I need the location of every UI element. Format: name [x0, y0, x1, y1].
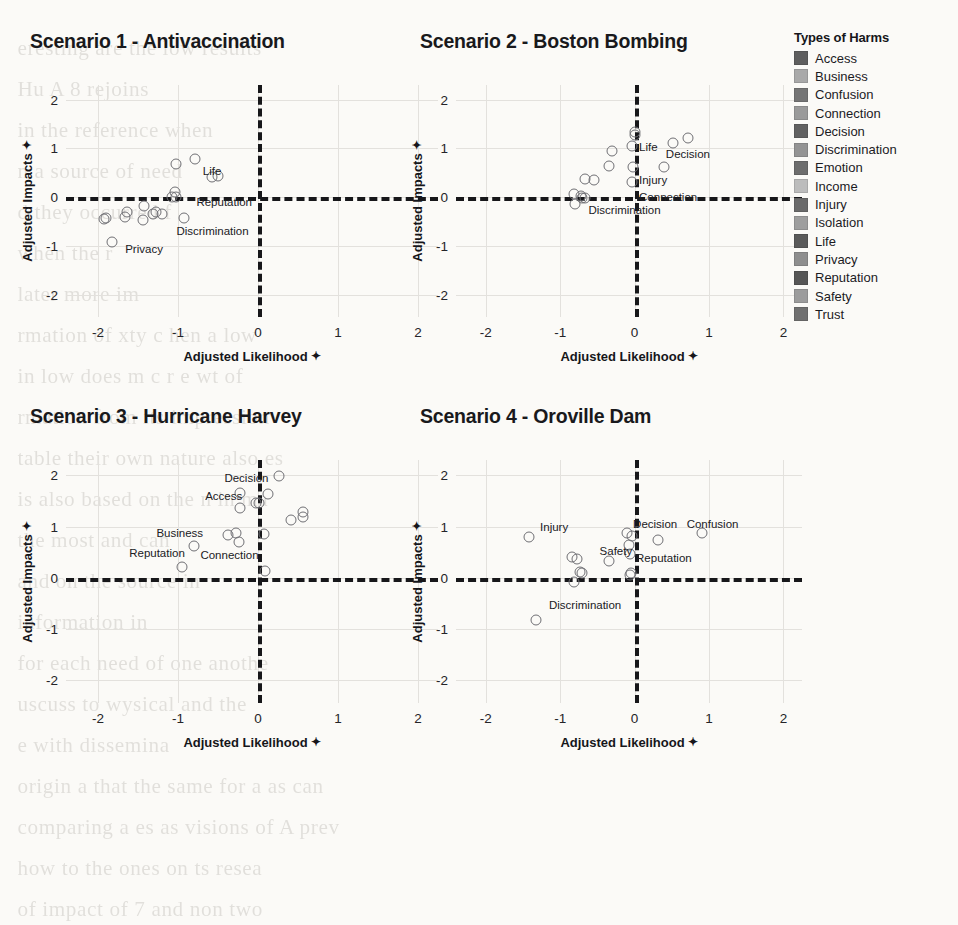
x-axis-label-text: Adjusted Likelihood — [183, 735, 307, 750]
sort-arrow-icon[interactable]: ✦ — [311, 350, 321, 362]
scatter-point[interactable] — [625, 570, 636, 581]
scatter-point[interactable] — [120, 211, 131, 222]
legend-item-business[interactable]: Business — [794, 67, 954, 85]
legend-item-confusion[interactable]: Confusion — [794, 86, 954, 104]
scatter-point[interactable] — [253, 498, 264, 509]
sort-arrow-icon[interactable]: ✦ — [21, 140, 33, 150]
legend-item-discrimination[interactable]: Discrimination — [794, 140, 954, 158]
scatter-point[interactable] — [659, 162, 670, 173]
data-label: Decision — [633, 518, 677, 530]
legend-swatch-icon — [794, 289, 808, 303]
scatter-point[interactable] — [107, 237, 118, 248]
legend-item-label: Access — [815, 52, 857, 65]
zero-axis-vertical — [635, 460, 639, 703]
scatter-point[interactable] — [628, 162, 639, 173]
scatter-point[interactable] — [668, 137, 679, 148]
scatter-point[interactable] — [170, 191, 181, 202]
legend-item-access[interactable]: Access — [794, 49, 954, 67]
scatter-point[interactable] — [157, 208, 168, 219]
legend-item-isolation[interactable]: Isolation — [794, 214, 954, 232]
legend-item-decision[interactable]: Decision — [794, 122, 954, 140]
legend-item-privacy[interactable]: Privacy — [794, 250, 954, 268]
gridline-horizontal — [456, 246, 802, 247]
legend-item-connection[interactable]: Connection — [794, 104, 954, 122]
sort-arrow-icon[interactable]: ✦ — [411, 140, 423, 150]
scatter-point[interactable] — [233, 536, 244, 547]
sort-arrow-icon[interactable]: ✦ — [688, 350, 698, 362]
scatter-point[interactable] — [570, 198, 581, 209]
legend-swatch-icon — [794, 179, 808, 193]
gridline-horizontal — [66, 527, 438, 528]
scatter-point[interactable] — [259, 528, 270, 539]
scatter-point[interactable] — [626, 140, 637, 151]
scatter-point[interactable] — [603, 161, 614, 172]
legend-item-label: Income — [815, 180, 858, 193]
x-axis-tick-label: 1 — [334, 711, 342, 726]
panel-title: Scenario 4 - Oroville Dam — [420, 405, 800, 428]
scatter-point[interactable] — [99, 213, 110, 224]
legend-swatch-icon — [794, 307, 808, 321]
y-axis-tick-label: -1 — [40, 621, 58, 636]
legend-item-injury[interactable]: Injury — [794, 195, 954, 213]
scatter-point[interactable] — [607, 146, 618, 157]
scatter-point[interactable] — [576, 568, 587, 579]
scatter-point[interactable] — [235, 502, 246, 513]
data-label: Decision — [666, 148, 710, 160]
legend-item-trust[interactable]: Trust — [794, 305, 954, 323]
scatter-point[interactable] — [189, 541, 200, 552]
scatter-point[interactable] — [627, 176, 638, 187]
scatter-point[interactable] — [171, 159, 182, 170]
sort-arrow-icon[interactable]: ✦ — [688, 736, 698, 748]
scatter-point[interactable] — [629, 129, 640, 140]
scatter-point[interactable] — [571, 554, 582, 565]
sort-arrow-icon[interactable]: ✦ — [311, 736, 321, 748]
x-axis-tick-label: -1 — [172, 325, 184, 340]
scatter-point[interactable] — [683, 132, 694, 143]
x-axis-tick-label: 0 — [254, 711, 262, 726]
plot-area: DecisionAccessBusinessReputationConnecti… — [66, 460, 438, 703]
scatter-point[interactable] — [260, 566, 271, 577]
legend-item-income[interactable]: Income — [794, 177, 954, 195]
legend-item-reputation[interactable]: Reputation — [794, 269, 954, 287]
scatter-point[interactable] — [177, 561, 188, 572]
data-label: Access — [205, 490, 242, 502]
legend-swatch-icon — [794, 161, 808, 175]
scatter-point[interactable] — [589, 174, 600, 185]
scatter-point[interactable] — [568, 576, 579, 587]
scatter-point[interactable] — [603, 555, 614, 566]
scatter-point[interactable] — [653, 535, 664, 546]
x-axis-label: Adjusted Likelihood✦ — [183, 735, 320, 750]
sort-arrow-icon[interactable]: ✦ — [21, 521, 33, 531]
legend-item-safety[interactable]: Safety — [794, 287, 954, 305]
legend-item-label: Business — [815, 70, 868, 83]
y-axis-tick-label: 0 — [430, 190, 448, 205]
scatter-point[interactable] — [189, 153, 200, 164]
scatter-point[interactable] — [523, 531, 534, 542]
sort-arrow-icon[interactable]: ✦ — [411, 521, 423, 531]
legend-item-emotion[interactable]: Emotion — [794, 159, 954, 177]
data-label: Reputation — [636, 552, 692, 564]
legend-swatch-icon — [794, 198, 808, 212]
y-axis-tick-label: 2 — [40, 92, 58, 107]
scatter-point[interactable] — [222, 530, 233, 541]
scatter-point[interactable] — [179, 212, 190, 223]
y-axis-tick-label: -1 — [430, 621, 448, 636]
legend-swatch-icon — [794, 234, 808, 248]
gridline-horizontal — [456, 475, 802, 476]
y-axis-tick-label: 1 — [40, 141, 58, 156]
scatter-point[interactable] — [285, 514, 296, 525]
scatter-point[interactable] — [273, 470, 284, 481]
legend-item-life[interactable]: Life — [794, 232, 954, 250]
plot-area: LifeReputationDiscriminationPrivacy-2-10… — [66, 85, 438, 317]
scatter-point[interactable] — [531, 615, 542, 626]
x-axis-tick-label: 0 — [631, 325, 639, 340]
scatter-point[interactable] — [137, 215, 148, 226]
x-axis-tick-label: -1 — [554, 711, 566, 726]
scatter-point[interactable] — [262, 488, 273, 499]
data-label: Confusion — [687, 518, 739, 530]
x-axis-tick-label: -2 — [92, 325, 104, 340]
data-label: Injury — [639, 174, 667, 186]
legend-swatch-icon — [794, 143, 808, 157]
scatter-point[interactable] — [580, 193, 591, 204]
scatter-point[interactable] — [297, 511, 308, 522]
